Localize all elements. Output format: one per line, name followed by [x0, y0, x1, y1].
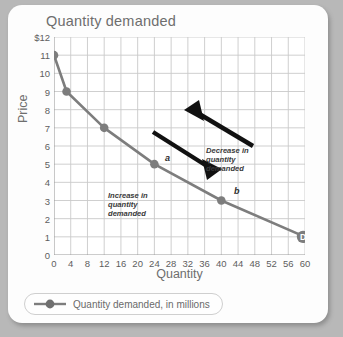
annotation-increase-line3: demanded	[108, 209, 148, 218]
x-axis-title: Quantity	[54, 267, 305, 281]
annotation-increase: Increase in quantity demanded	[108, 191, 148, 219]
annotation-decrease-line3: demanded	[206, 164, 249, 173]
y-tick-label: 5	[45, 159, 50, 170]
y-tick-label: 8	[45, 104, 50, 115]
data-point	[217, 196, 226, 205]
data-point	[100, 124, 109, 133]
y-tick-label: 6	[45, 141, 50, 152]
y-tick-label: 1	[45, 231, 50, 242]
y-tick-label: 2	[45, 213, 50, 224]
y-tick-label: 10	[39, 68, 50, 79]
annotation-increase-line2: quantity	[108, 200, 148, 209]
y-tick-label: 3	[45, 195, 50, 206]
annotation-decrease-line1: Decrease in	[206, 146, 249, 155]
data-point	[62, 87, 71, 96]
y-tick-label: 7	[45, 122, 50, 133]
point-label-b: b	[234, 186, 240, 196]
chart-svg: D	[54, 37, 305, 255]
y-tick-label: 9	[45, 86, 50, 97]
y-tick-label: $12	[34, 32, 50, 43]
annotation-decrease: Decrease in quantity demanded	[206, 146, 249, 174]
chart-legend[interactable]: Quantity demanded, in millions	[24, 293, 223, 315]
legend-marker-icon	[33, 298, 67, 310]
svg-text:D: D	[300, 232, 305, 242]
legend-label-quantity-demanded: Quantity demanded, in millions	[73, 299, 210, 310]
chart-title: Quantity demanded	[46, 13, 176, 29]
y-tick-label: 11	[40, 50, 50, 61]
annotation-increase-line1: Increase in	[108, 191, 148, 200]
annotation-decrease-line2: quantity	[206, 155, 249, 164]
y-tick-label: 4	[45, 177, 50, 188]
plot-area: D 01234567891011$12 04812162024283236404…	[54, 37, 305, 255]
y-tick-label: 0	[45, 250, 50, 261]
point-label-a: a	[165, 153, 170, 163]
screenshot-root: Quantity demanded Price D	[0, 0, 343, 337]
y-axis-title: Price	[16, 95, 30, 123]
chart-card: Quantity demanded Price D	[8, 5, 328, 323]
data-point	[150, 160, 159, 169]
